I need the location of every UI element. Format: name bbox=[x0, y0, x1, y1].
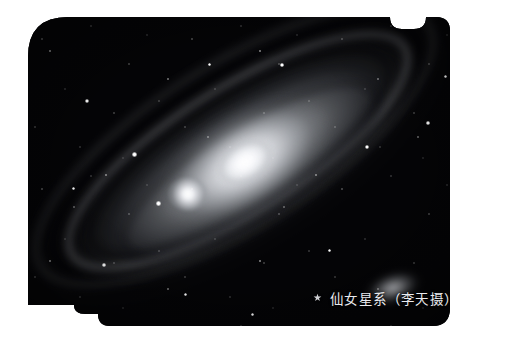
page-canvas: ★ 仙女星系（李天摄） bbox=[0, 0, 506, 343]
andromeda-galaxy-photograph: ★ 仙女星系（李天摄） bbox=[28, 17, 478, 326]
foreground-star bbox=[460, 230, 464, 234]
photo-vignette bbox=[28, 17, 478, 326]
caption-label: 仙女星系（李天摄） bbox=[330, 288, 458, 308]
photo-caption: ★ 仙女星系（李天摄） bbox=[313, 288, 458, 308]
star-icon: ★ bbox=[313, 293, 323, 303]
